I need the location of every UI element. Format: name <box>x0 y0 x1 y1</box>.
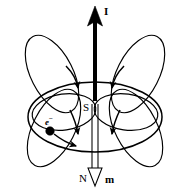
direction-arrow-lower-left <box>70 110 78 134</box>
upper-left-lobe <box>14 27 90 121</box>
direction-arrow-lower-right <box>112 110 120 134</box>
magnetic-moment-label: m <box>105 174 114 185</box>
current-label: I <box>104 6 108 17</box>
diagram-canvas <box>0 0 189 189</box>
current-arrow <box>88 6 103 101</box>
electron-label: e− <box>45 118 53 127</box>
electron-label-charge: − <box>49 115 53 123</box>
magnetic-moment-arrow <box>88 104 102 186</box>
magnetic-moment-head <box>88 168 102 186</box>
electron-marker <box>46 127 55 136</box>
direction-arrow-electron-path <box>54 134 76 146</box>
physics-diagram-figure: I S N m e− <box>0 0 189 189</box>
north-pole-label: N <box>79 173 87 184</box>
upper-right-lobe <box>100 27 176 121</box>
south-pole-label: S <box>83 102 89 113</box>
